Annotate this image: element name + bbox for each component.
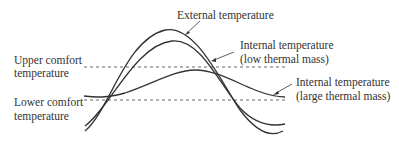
internal-large-mass-curve [84, 70, 285, 97]
thermal-mass-diagram: External temperature Internal temperatur… [0, 0, 399, 146]
internal-large-label-line2: (large thermal mass) [296, 90, 390, 103]
external-temperature-label: External temperature [177, 9, 274, 22]
internal-large-label-line1: Internal temperature [296, 76, 390, 89]
upper-comfort-label-line1: Upper comfort [14, 54, 82, 67]
internal-low-arrow-icon [211, 52, 234, 62]
internal-low-label-line1: Internal temperature [240, 39, 334, 52]
upper-comfort-label-line2: temperature [14, 67, 69, 80]
lower-comfort-label-line1: Lower comfort [14, 96, 83, 109]
lower-comfort-label-line2: temperature [14, 110, 69, 123]
internal-low-label-line2: (low thermal mass) [240, 53, 329, 66]
internal-large-arrow-icon [273, 84, 292, 95]
external-arrow-icon [185, 21, 200, 35]
